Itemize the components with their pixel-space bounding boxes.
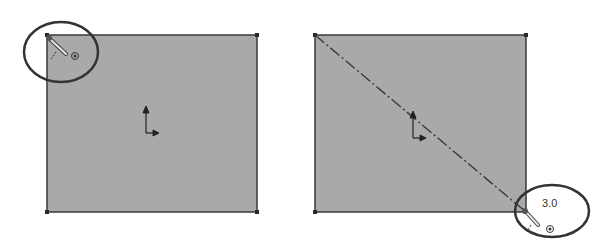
line-length-label: 3.0: [542, 197, 557, 209]
coincident-relation-icon: [547, 226, 554, 233]
before-panel: [24, 22, 259, 214]
sketch-rectangle-left[interactable]: [47, 35, 257, 212]
sketch-diagram: [0, 0, 593, 249]
